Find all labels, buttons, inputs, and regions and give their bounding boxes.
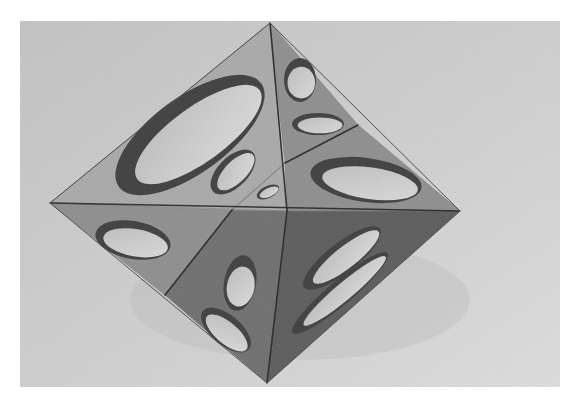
photo-grain-overlay [20, 21, 560, 387]
octahedron-sculpture-illustration [20, 21, 560, 387]
sculpture-photo [20, 21, 560, 387]
image-frame [0, 0, 582, 405]
